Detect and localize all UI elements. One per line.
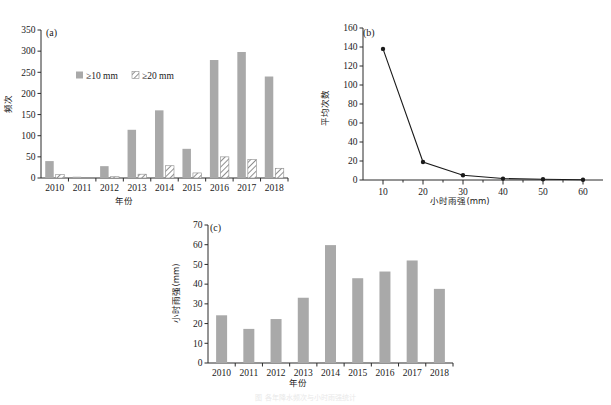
data-point	[581, 178, 585, 182]
bar-ge20	[56, 175, 65, 178]
bar-ge10	[45, 161, 54, 178]
data-point	[421, 160, 425, 164]
y-tick-label: 100	[343, 80, 358, 90]
y-tick-label: 50	[193, 260, 203, 270]
x-tick-label: 2015	[348, 368, 367, 378]
x-tick-label: 2010	[212, 368, 231, 378]
legend-label-ge20: ≥20 mm	[142, 71, 174, 81]
legend-swatch-ge10	[76, 72, 83, 79]
bar-ge20	[193, 173, 202, 178]
panel-a-svg: 0501001502002503003502010201120122013201…	[0, 8, 300, 208]
y-tick-label: 200	[21, 89, 36, 99]
x-tick-label: 2013	[294, 368, 313, 378]
bar-ge20	[275, 168, 284, 178]
bar-hourly-intensity	[407, 260, 418, 363]
x-tick-label: 2012	[100, 183, 119, 193]
legend-label-ge10: ≥10 mm	[86, 71, 118, 81]
bar-ge20	[248, 159, 256, 178]
x-tick-label: 2011	[73, 183, 92, 193]
bar-ge10	[128, 130, 137, 178]
y-tick-label: 70	[193, 220, 203, 230]
figure-container: 0501001502002503003502010201120122013201…	[0, 0, 611, 405]
x-tick-label: 40	[498, 187, 508, 197]
y-tick-label: 30	[193, 299, 203, 309]
panel-a-tag: (a)	[46, 27, 57, 39]
bar-hourly-intensity	[325, 245, 336, 363]
bar-hourly-intensity	[379, 272, 390, 363]
x-tick-label: 2016	[375, 368, 394, 378]
y-tick-label: 300	[21, 46, 36, 56]
y-tick-label: 80	[348, 99, 358, 109]
y-tick-label: 250	[21, 68, 36, 78]
y-tick-label: 0	[353, 175, 358, 185]
bar-hourly-intensity	[434, 289, 445, 363]
panel-a-x-axis-title: 年份	[115, 196, 133, 206]
y-tick-label: 20	[193, 319, 203, 329]
bar-ge10	[73, 177, 82, 178]
x-tick-label: 2018	[430, 368, 449, 378]
bar-hourly-intensity	[271, 319, 282, 363]
y-tick-label: 40	[348, 137, 358, 147]
x-tick-label: 2017	[403, 368, 422, 378]
bar-ge10	[237, 52, 246, 178]
data-point	[541, 177, 545, 181]
panel-b-svg: 020406080100120140160102030405060 (b) 小时…	[308, 8, 611, 208]
panel-a-frequency-by-year: 0501001502002503003502010201120122013201…	[0, 8, 300, 208]
bar-ge10	[100, 166, 109, 178]
line-series-average-count	[383, 49, 583, 180]
y-tick-label: 160	[343, 23, 358, 33]
x-tick-label: 2015	[182, 183, 201, 193]
data-point	[461, 173, 465, 177]
x-tick-label: 2014	[321, 368, 340, 378]
panel-b-y-axis-title: 平均次数	[320, 90, 330, 126]
bar-hourly-intensity	[243, 329, 254, 363]
bar-ge20	[166, 166, 175, 178]
x-tick-label: 60	[578, 187, 588, 197]
y-tick-label: 60	[348, 118, 358, 128]
bar-ge20	[111, 177, 120, 178]
panel-c-svg: 0102030405060702010201120122013201420152…	[168, 205, 468, 390]
panel-c-tag: (c)	[210, 222, 221, 234]
panel-c-y-axis-title: 小时雨强(mm)	[171, 263, 181, 322]
y-tick-label: 60	[193, 240, 203, 250]
x-tick-label: 2013	[128, 183, 147, 193]
bar-ge20	[138, 174, 147, 178]
y-tick-label: 0	[31, 173, 36, 183]
x-tick-label: 2018	[265, 183, 284, 193]
y-tick-label: 0	[198, 358, 203, 368]
panel-b-tag: (b)	[363, 27, 375, 39]
panel-c-x-axis-title: 年份	[289, 378, 307, 388]
y-tick-label: 150	[21, 110, 36, 120]
x-tick-label: 50	[538, 187, 548, 197]
x-tick-label: 2012	[267, 368, 286, 378]
panel-b-average-count-vs-intensity: 020406080100120140160102030405060 (b) 小时…	[308, 8, 611, 208]
bar-ge20	[220, 157, 229, 178]
data-point	[501, 176, 505, 180]
x-tick-label: 2016	[210, 183, 229, 193]
bar-ge10	[265, 77, 274, 178]
bar-ge10	[155, 110, 164, 178]
figure-caption: 图 各年降水频次与小时雨强统计	[0, 392, 611, 402]
legend-swatch-ge20	[132, 72, 139, 79]
y-tick-label: 10	[193, 339, 203, 349]
bar-hourly-intensity	[298, 298, 309, 363]
y-tick-label: 40	[193, 279, 203, 289]
y-tick-label: 350	[21, 25, 36, 35]
y-tick-label: 120	[343, 61, 358, 71]
x-tick-label: 20	[418, 187, 428, 197]
bar-hourly-intensity	[352, 278, 363, 363]
bar-ge10	[182, 149, 191, 178]
bar-hourly-intensity	[216, 315, 227, 363]
bar-ge10	[210, 60, 219, 178]
x-tick-label: 2014	[155, 183, 174, 193]
x-tick-label: 10	[378, 187, 388, 197]
y-tick-label: 140	[343, 42, 358, 52]
y-tick-label: 20	[348, 156, 358, 166]
y-tick-label: 100	[21, 131, 36, 141]
panel-a-y-axis-title: 频次	[3, 95, 13, 113]
data-point	[381, 47, 385, 51]
y-tick-label: 50	[26, 152, 36, 162]
x-tick-label: 2017	[237, 183, 256, 193]
x-tick-label: 2010	[45, 183, 64, 193]
panel-c-intensity-by-year: 0102030405060702010201120122013201420152…	[168, 205, 468, 390]
